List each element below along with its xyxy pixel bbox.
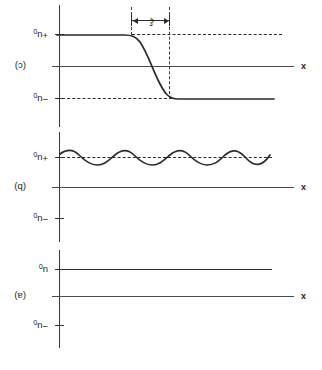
panel-a-label-u0: u0: [39, 263, 48, 275]
panel-a: −u0 u0 x (a): [0, 250, 322, 370]
figure-plate: −u0 +u0 x ξ (c) −u0: [0, 0, 322, 370]
panel-c: −u0 +u0 x ξ (c): [0, 0, 322, 130]
panel-a-tick-upper: [55, 325, 64, 326]
panel-c-dim-arrow-left: [164, 18, 169, 24]
panel-a-ground-state-line: [57, 269, 272, 270]
panel-a-x-axis-line: [52, 296, 294, 297]
panel-a-x-axis-label: x: [301, 292, 306, 301]
panel-a-label-minus-u0: −u0: [33, 319, 48, 331]
panel-a-vertical-axis: [59, 250, 60, 348]
panel-b-oscillation-curve: [0, 130, 322, 250]
panel-b: −u0 +u0 x (b): [0, 130, 322, 250]
panel-c-width-label-xi: ξ: [150, 18, 154, 28]
panel-c-dim-arrow-right: [133, 18, 138, 24]
panel-c-tag: (c): [15, 62, 26, 72]
panel-b-tag: (b): [14, 183, 26, 193]
panel-a-tag: (a): [14, 292, 26, 302]
